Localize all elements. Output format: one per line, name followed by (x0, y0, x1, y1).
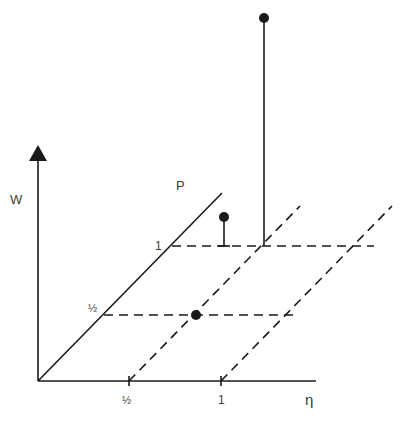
eta-axis-label: η (305, 391, 313, 408)
grid-eta-one (221, 206, 392, 381)
p-tick-one-label: 1 (155, 239, 162, 253)
p-tick-half-label: ½ (88, 302, 97, 314)
eta-tick-half-label: ½ (122, 394, 131, 406)
w-axis-label: W (10, 192, 23, 207)
w-axis-arrow-icon (29, 145, 47, 161)
point-short-stem (219, 212, 229, 222)
point-plane (191, 310, 201, 320)
point-tall-stem (259, 13, 269, 23)
p-axis-label: P (176, 178, 185, 193)
p-axis (38, 193, 222, 381)
grid-eta-half (129, 206, 300, 381)
stem-diagram: W P η 1 ½ ½ 1 (0, 0, 405, 431)
eta-tick-one-label: 1 (218, 393, 225, 407)
